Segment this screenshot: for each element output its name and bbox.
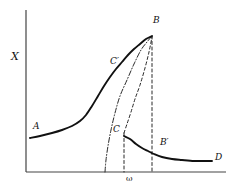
point-label-C: C	[113, 125, 120, 134]
x-axis-label: ω	[126, 175, 133, 183]
point-label-D: D	[215, 153, 222, 162]
point-label-C-prime: C′	[110, 57, 119, 66]
resonance-curve-figure: X ω ABC′CB′D	[0, 0, 238, 190]
point-label-A: A	[33, 122, 40, 131]
series-unstable-branch-C-to-B	[124, 37, 152, 133]
point-label-B-prime: B′	[160, 138, 169, 147]
series-lower-left-branch-A-to-B	[30, 36, 152, 138]
figure-canvas	[0, 0, 238, 190]
point-label-B: B	[153, 16, 160, 25]
y-axis-label: X	[11, 51, 19, 62]
